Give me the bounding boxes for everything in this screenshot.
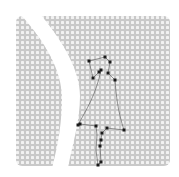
selection-point: [106, 127, 109, 130]
dotted-pattern-scene: [0, 0, 179, 177]
selection-point: [95, 125, 98, 128]
selection-point: [99, 145, 102, 148]
selection-point: [114, 79, 117, 82]
selection-point: [97, 164, 100, 167]
selection-point: [101, 132, 104, 135]
selection-point: [100, 139, 103, 142]
selection-point: [100, 161, 103, 164]
selection-point: [77, 124, 80, 127]
selection-point: [107, 72, 110, 75]
selection-point: [98, 71, 101, 74]
selection-point: [104, 56, 107, 59]
selection-point: [92, 77, 95, 80]
selection-point: [88, 60, 91, 63]
pattern-square: [16, 14, 170, 168]
selection-point: [109, 61, 112, 64]
selection-point: [123, 129, 126, 132]
